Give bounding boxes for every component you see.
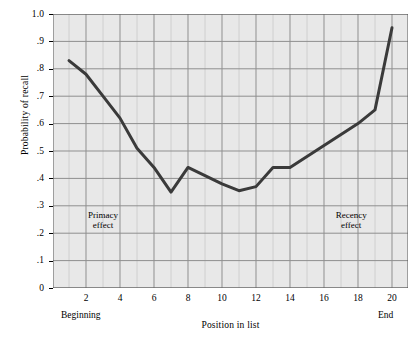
x-tick-label: 14 [278,293,302,303]
y-tick-mark [49,151,53,152]
y-tick-mark [49,178,53,179]
y-tick-mark [49,96,53,97]
y-tick-label: .2 [0,228,44,238]
y-tick-label: .9 [0,36,44,46]
chart-canvas [53,14,408,288]
y-tick-mark [49,14,53,15]
y-tick-label: 1.0 [0,9,44,19]
x-tick-label: 16 [312,293,336,303]
x-tick-label: 2 [74,293,98,303]
y-tick-mark [49,233,53,234]
y-tick-mark [49,69,53,70]
annotation-line-2: effect [311,220,391,231]
x-tick-label: 8 [176,293,200,303]
plot-annotation: Recencyeffect [311,210,391,231]
y-tick-label: .5 [0,146,44,156]
y-tick-label: .1 [0,255,44,265]
x-tick-label: 18 [346,293,370,303]
y-tick-mark [49,288,53,289]
x-tick-label: 4 [108,293,132,303]
y-tick-label: 0 [0,283,44,293]
y-tick-mark [49,206,53,207]
annotation-line-1: Recency [311,210,391,221]
x-tick-label: 20 [380,293,404,303]
grid-lines [53,14,408,288]
plot-area [53,14,408,288]
plot-annotation: Primacyeffect [63,210,143,231]
x-axis-title: Position in list [53,320,408,330]
y-tick-label: .7 [0,91,44,101]
annotation-line-2: effect [63,220,143,231]
y-tick-mark [49,261,53,262]
y-tick-mark [49,124,53,125]
recall-curve [69,28,392,192]
x-tick-label: 6 [142,293,166,303]
x-tick-label: 12 [244,293,268,303]
annotation-line-1: Primacy [63,210,143,221]
y-tick-mark [49,41,53,42]
y-tick-label: .3 [0,200,44,210]
x-tick-label: 10 [210,293,234,303]
y-tick-label: .4 [0,173,44,183]
serial-position-chart: Probability of recall 0.1.2.3.4.5.6.7.8.… [0,0,418,337]
y-tick-label: .6 [0,118,44,128]
y-tick-label: .8 [0,63,44,73]
